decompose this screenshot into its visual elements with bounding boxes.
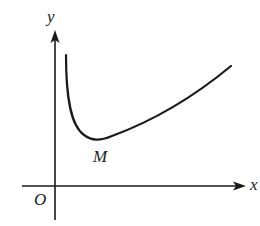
- graph-diagram: y x O M: [0, 0, 260, 226]
- min-point-label: M: [93, 148, 107, 165]
- function-curve: [66, 55, 231, 140]
- x-axis-label: x: [250, 176, 258, 193]
- y-axis-label: y: [47, 8, 55, 25]
- origin-label: O: [34, 191, 46, 208]
